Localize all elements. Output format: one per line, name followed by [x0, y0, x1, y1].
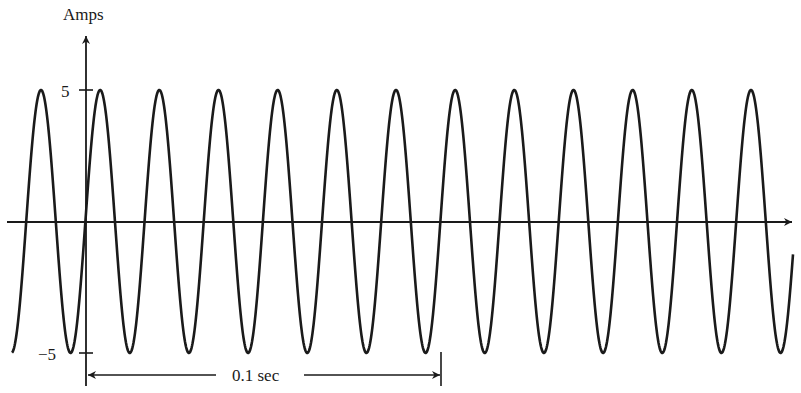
y-tick-label-5: 5: [61, 82, 70, 101]
interval-label: 0.1 sec: [232, 366, 280, 385]
y-tick-label-neg5: −5: [38, 345, 56, 364]
y-axis-label: Amps: [63, 5, 104, 24]
sine-wave-figure: Amps 5 −5 0.1 sec: [0, 0, 801, 393]
plot-svg: Amps 5 −5 0.1 sec: [0, 0, 801, 393]
